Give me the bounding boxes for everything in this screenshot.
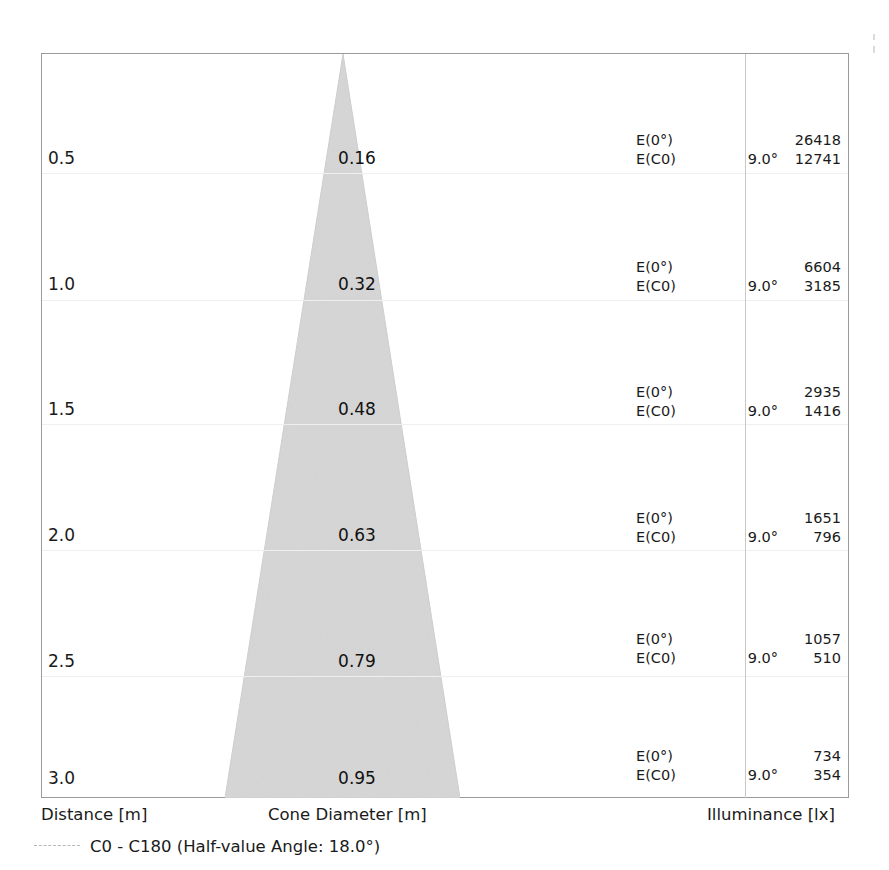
illuminance-label: E(0°)	[636, 383, 673, 402]
illuminance-label: E(C0)	[636, 402, 676, 421]
illuminance-angle: 9.0°	[724, 766, 778, 785]
cone-diameter-label-1-5: 0.48	[338, 401, 376, 418]
scan-artifact	[873, 46, 875, 53]
illuminance-value: 12741	[778, 150, 841, 169]
cone-diameter-label-2-5: 0.79	[338, 653, 376, 670]
illuminance-value: 6604	[778, 258, 841, 277]
illuminance-group-0-5: E(0°) 26418 E(C0) 9.0° 12741	[636, 131, 836, 169]
illuminance-label: E(C0)	[636, 649, 676, 668]
distance-label-1-5: 1.5	[48, 401, 75, 418]
cone-diameter-label-3-0: 0.95	[338, 770, 376, 787]
distance-label-2-0: 2.0	[48, 527, 75, 544]
illuminance-axis-caption: Illuminance [lx]	[707, 806, 835, 823]
illuminance-label: E(C0)	[636, 277, 676, 296]
distance-label-0-5: 0.5	[48, 150, 75, 167]
illuminance-angle: 9.0°	[724, 402, 778, 421]
illuminance-label: E(0°)	[636, 747, 673, 766]
gridline-0-5	[42, 173, 848, 174]
illuminance-label: E(C0)	[636, 150, 676, 169]
illuminance-value: 796	[778, 528, 841, 547]
illuminance-row-ec0: E(C0) 9.0° 354	[636, 766, 836, 785]
gridline-2-0	[42, 550, 848, 551]
legend-label: C0 - C180 (Half-value Angle: 18.0°)	[90, 838, 380, 855]
illuminance-row-e0: E(0°) 6604	[636, 258, 836, 277]
illuminance-group-2-0: E(0°) 1651 E(C0) 9.0° 796	[636, 509, 836, 547]
illuminance-row-ec0: E(C0) 9.0° 12741	[636, 150, 836, 169]
illuminance-angle: 9.0°	[724, 649, 778, 668]
illuminance-value: 3185	[778, 277, 841, 296]
illuminance-value: 734	[778, 747, 841, 766]
illuminance-value: 510	[778, 649, 841, 668]
illuminance-row-ec0: E(C0) 9.0° 3185	[636, 277, 836, 296]
illuminance-value: 1057	[778, 630, 841, 649]
illuminance-value: 26418	[778, 131, 841, 150]
illuminance-label: E(0°)	[636, 630, 673, 649]
gridline-1-0	[42, 300, 848, 301]
gridline-1-5	[42, 424, 848, 425]
illuminance-row-e0: E(0°) 1651	[636, 509, 836, 528]
cone-diameter-label-1-0: 0.32	[338, 276, 376, 293]
cone-diameter-label-2-0: 0.63	[338, 527, 376, 544]
illuminance-row-e0: E(0°) 1057	[636, 630, 836, 649]
illuminance-group-2-5: E(0°) 1057 E(C0) 9.0° 510	[636, 630, 836, 668]
illuminance-group-1-5: E(0°) 2935 E(C0) 9.0° 1416	[636, 383, 836, 421]
illuminance-row-e0: E(0°) 26418	[636, 131, 836, 150]
illuminance-row-e0: E(0°) 734	[636, 747, 836, 766]
distance-axis-caption: Distance [m]	[41, 806, 147, 823]
cone-diameter-caption: Cone Diameter [m]	[268, 806, 427, 823]
illuminance-value: 1416	[778, 402, 841, 421]
legend-line-swatch	[34, 845, 80, 847]
distance-label-3-0: 3.0	[48, 770, 75, 787]
gridline-2-5	[42, 676, 848, 677]
illuminance-row-ec0: E(C0) 9.0° 510	[636, 649, 836, 668]
illuminance-row-ec0: E(C0) 9.0° 1416	[636, 402, 836, 421]
distance-label-1-0: 1.0	[48, 276, 75, 293]
scan-artifact	[873, 34, 875, 40]
illuminance-label: E(0°)	[636, 509, 673, 528]
illuminance-group-3-0: E(0°) 734 E(C0) 9.0° 354	[636, 747, 836, 785]
illuminance-group-1-0: E(0°) 6604 E(C0) 9.0° 3185	[636, 258, 836, 296]
illuminance-angle: 9.0°	[724, 150, 778, 169]
illuminance-label: E(C0)	[636, 528, 676, 547]
distance-label-2-5: 2.5	[48, 653, 75, 670]
illuminance-value: 1651	[778, 509, 841, 528]
illuminance-value: 2935	[778, 383, 841, 402]
light-cone-diagram: 0.5 1.0 1.5 2.0 2.5 3.0 0.16 0.32 0.48 0…	[0, 0, 889, 870]
illuminance-angle: 9.0°	[724, 528, 778, 547]
illuminance-label: E(C0)	[636, 766, 676, 785]
illuminance-row-e0: E(0°) 2935	[636, 383, 836, 402]
illuminance-label: E(0°)	[636, 258, 673, 277]
illuminance-value: 354	[778, 766, 841, 785]
illuminance-label: E(0°)	[636, 131, 673, 150]
legend: C0 - C180 (Half-value Angle: 18.0°)	[34, 835, 380, 857]
cone-diameter-label-0-5: 0.16	[338, 150, 376, 167]
illuminance-angle: 9.0°	[724, 277, 778, 296]
illuminance-row-ec0: E(C0) 9.0° 796	[636, 528, 836, 547]
